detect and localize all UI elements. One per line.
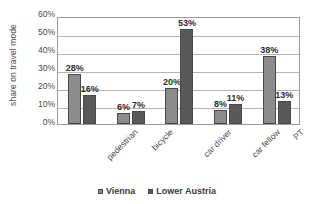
- bar-value-label: 20%: [163, 77, 181, 87]
- legend-label: Lower Austria: [156, 186, 216, 196]
- legend: ViennaLower Austria: [0, 186, 314, 196]
- bar-group: 20%53%: [155, 18, 204, 124]
- y-axis-tick-labels: 0%10%20%30%40%50%60%: [24, 13, 55, 125]
- bar: [229, 104, 242, 124]
- bar-group: 28%16%: [58, 18, 107, 124]
- bar: [68, 74, 81, 124]
- bar-value-label: 11%: [227, 93, 245, 103]
- bar: [180, 29, 193, 124]
- y-axis-title: share on travel mode: [8, 6, 18, 124]
- legend-swatch-icon: [148, 189, 153, 194]
- y-axis-tick-label: 40%: [24, 45, 55, 55]
- legend-swatch-icon: [98, 189, 103, 194]
- bar: [165, 88, 178, 124]
- bar-value-label: 8%: [214, 99, 227, 109]
- y-axis-tick-label: 0%: [24, 117, 55, 127]
- x-axis-category-labels: pedestrianbicyclecar drivercar fellowPT: [57, 125, 300, 180]
- bar: [117, 113, 130, 124]
- bar-chart: share on travel mode 0%10%20%30%40%50%60…: [0, 0, 314, 204]
- bar-value-label: 53%: [178, 18, 196, 28]
- bar-group: 6%7%: [107, 18, 156, 124]
- bar-value-label: 16%: [81, 84, 99, 94]
- x-axis-category-label: bicycle: [150, 127, 175, 152]
- x-axis-category-label: pedestrian: [105, 127, 140, 162]
- bar: [214, 110, 227, 124]
- legend-item[interactable]: Lower Austria: [148, 186, 216, 196]
- y-axis-tick-label: 10%: [24, 99, 55, 109]
- bar-value-label: 38%: [260, 45, 278, 55]
- x-axis-category-label: car driver: [201, 127, 233, 159]
- bar-value-label: 28%: [66, 63, 84, 73]
- bar: [83, 95, 96, 124]
- y-axis-tick-label: 50%: [24, 27, 55, 37]
- bar-group: 8%11%: [204, 18, 253, 124]
- x-axis-category-label: car fellow: [250, 127, 282, 159]
- bar-series-container: 28%16%6%7%20%53%8%11%38%13%: [58, 18, 299, 124]
- y-axis-tick-label: 20%: [24, 81, 55, 91]
- x-axis-category-label: PT: [291, 127, 306, 142]
- bar-group: 38%13%: [252, 18, 301, 124]
- legend-label: Vienna: [106, 186, 135, 196]
- plot-area: 28%16%6%7%20%53%8%11%38%13%: [57, 17, 300, 125]
- bar: [132, 111, 145, 124]
- bar: [263, 56, 276, 124]
- y-axis-tick-label: 30%: [24, 63, 55, 73]
- bar: [278, 101, 291, 124]
- y-axis-tick-label: 60%: [24, 9, 55, 19]
- bar-value-label: 13%: [275, 90, 293, 100]
- bar-value-label: 7%: [132, 100, 145, 110]
- bar-value-label: 6%: [117, 102, 130, 112]
- legend-item[interactable]: Vienna: [98, 186, 135, 196]
